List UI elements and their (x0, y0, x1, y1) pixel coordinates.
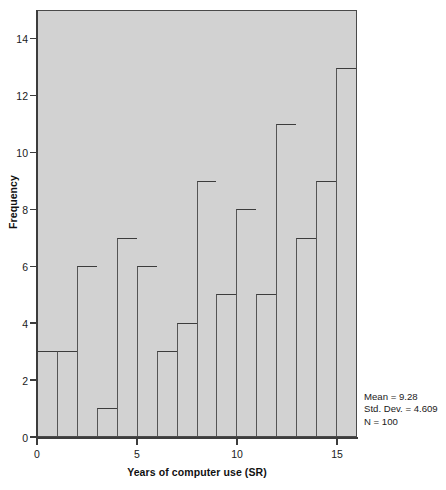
y-axis-tick-label: 14 (0, 33, 28, 45)
histogram-bar (276, 124, 296, 436)
histogram-figure: 02468101214 051015 Years of computer use… (0, 0, 446, 490)
y-axis-tick-label: 10 (0, 147, 28, 159)
y-axis-tick-label: 6 (0, 261, 28, 273)
histogram-bar (137, 266, 157, 436)
histogram-bar (256, 294, 276, 436)
y-axis-tick (30, 266, 37, 267)
stat-mean: Mean = 9.28 (364, 391, 438, 403)
x-axis-tick (336, 438, 337, 445)
y-axis-tick (30, 95, 37, 96)
y-axis-title: Frequency (7, 162, 19, 242)
y-axis-tick (30, 38, 37, 39)
x-axis-tick (36, 438, 37, 445)
histogram-bar (316, 181, 336, 436)
statistics-annotation: Mean = 9.28 Std. Dev. = 4.609 N = 100 (364, 391, 438, 428)
histogram-bar (97, 408, 117, 436)
histogram-bar (177, 323, 197, 436)
plot-area (37, 10, 357, 437)
histogram-bar (197, 181, 217, 436)
y-axis-tick (30, 379, 37, 380)
y-axis-tick-label: 2 (0, 375, 28, 387)
y-axis-tick-label: 0 (0, 432, 28, 444)
y-axis-tick (30, 152, 37, 153)
x-axis-tick-label: 0 (22, 448, 52, 460)
histogram-bar (157, 351, 177, 436)
x-axis-tick-label: 15 (322, 448, 352, 460)
histogram-bar (336, 68, 356, 436)
stat-std-dev: Std. Dev. = 4.609 (364, 403, 438, 415)
x-axis-tick (136, 438, 137, 445)
histogram-bar (236, 209, 256, 436)
histogram-bars (38, 11, 356, 436)
x-axis-tick-label: 10 (222, 448, 252, 460)
y-axis-line (36, 10, 38, 438)
y-axis-tick-label: 12 (0, 90, 28, 102)
y-axis-tick (30, 209, 37, 210)
y-axis-tick-label: 4 (0, 318, 28, 330)
x-axis-tick-label: 5 (122, 448, 152, 460)
histogram-bar (296, 238, 316, 436)
histogram-bar (57, 351, 77, 436)
x-axis-tick (236, 438, 237, 445)
x-axis-line (36, 437, 358, 439)
histogram-bar (117, 238, 137, 436)
histogram-bar (38, 351, 57, 436)
y-axis-tick (30, 322, 37, 323)
histogram-bar (77, 266, 97, 436)
histogram-bar (216, 294, 236, 436)
x-axis-title: Years of computer use (SR) (37, 466, 357, 478)
stat-n: N = 100 (364, 416, 438, 428)
